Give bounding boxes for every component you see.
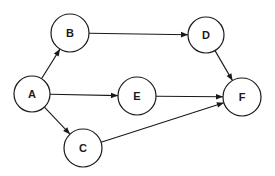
node-label: E (133, 90, 140, 102)
directed-graph: ABCDEF (0, 0, 275, 176)
node-label: B (66, 27, 74, 39)
node-b: B (51, 14, 89, 52)
arrow-line (156, 96, 223, 97)
node-f: F (223, 78, 261, 116)
node-label: C (79, 142, 87, 154)
node-label: A (28, 88, 36, 100)
edge-a-to-e (50, 94, 118, 95)
nodes-layer: ABCDEF (14, 14, 261, 167)
arrow-line (50, 94, 118, 95)
node-d: D (188, 17, 224, 53)
edge-a-to-b (42, 49, 61, 79)
edge-c-to-f (101, 103, 224, 142)
edge-d-to-f (215, 51, 233, 81)
edge-b-to-d (89, 33, 188, 34)
arrow-line (101, 103, 224, 142)
arrow-line (89, 33, 188, 34)
arrow-line (42, 49, 61, 79)
node-c: C (64, 129, 102, 167)
node-label: D (202, 29, 210, 41)
node-a: A (14, 76, 50, 112)
arrow-line (44, 107, 70, 134)
arrow-line (215, 51, 233, 81)
edge-e-to-f (156, 96, 223, 97)
node-label: F (239, 91, 246, 103)
node-e: E (118, 77, 156, 115)
edge-a-to-c (44, 107, 70, 134)
